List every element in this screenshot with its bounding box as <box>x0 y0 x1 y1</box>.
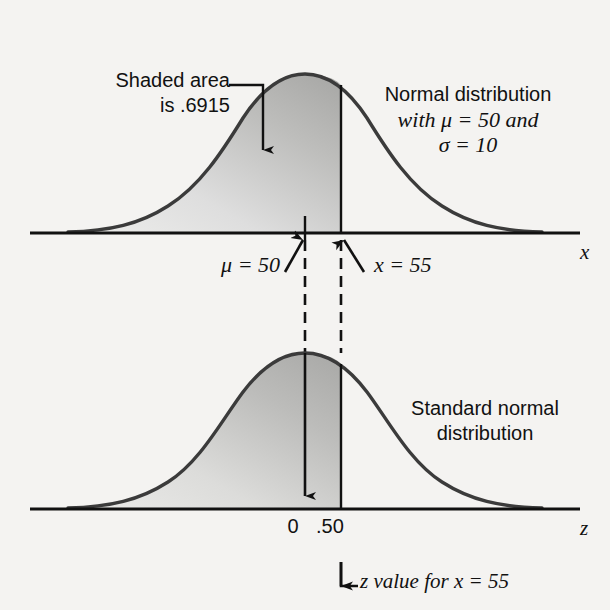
mu-value-label: μ = 50 <box>168 252 280 277</box>
shaded-area-line-2: is .6915 <box>62 93 230 118</box>
z-value-caption-elbow <box>341 562 358 586</box>
standard-normal-annotation: Standard normal distribution <box>392 396 578 446</box>
normal-distribution-figure: Shaded area is .6915 Normal distribution… <box>0 0 610 610</box>
normal-distribution-line-3: σ = 10 <box>368 132 568 157</box>
x-value-label: x = 55 <box>374 252 474 277</box>
normal-distribution-line-2: with μ = 50 and <box>368 107 568 132</box>
normal-distribution-annotation: Normal distribution with μ = 50 and σ = … <box>368 82 568 157</box>
mu-pointer-arrow <box>285 240 303 272</box>
shaded-area-annotation: Shaded area is .6915 <box>62 68 230 118</box>
shaded-area-line-1: Shaded area <box>62 68 230 93</box>
x-axis-label: x <box>580 240 589 265</box>
x55-pointer-arrow <box>344 240 364 272</box>
z-tick-label-half: .50 <box>316 514 372 539</box>
standard-normal-line-2: distribution <box>392 421 578 446</box>
z-tick-label-zero: 0 <box>276 514 310 539</box>
z-value-caption: z value for x = 55 <box>360 569 580 594</box>
z-axis-label: z <box>580 516 588 541</box>
standard-normal-line-1: Standard normal <box>392 396 578 421</box>
bottom-shaded-region <box>68 353 341 508</box>
normal-distribution-line-1: Normal distribution <box>368 82 568 107</box>
